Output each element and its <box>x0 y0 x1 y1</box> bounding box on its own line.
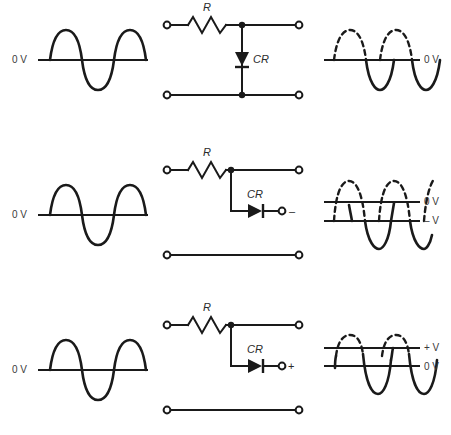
diode-label: CR <box>247 343 263 355</box>
junction-node-top <box>228 167 234 173</box>
sine-wave-second-cycle <box>114 340 146 370</box>
junction-node-bottom <box>239 92 245 98</box>
wave-rise-1 <box>335 356 336 368</box>
diode-anode-triangle <box>248 204 262 218</box>
zero-volt-label: 0 V <box>12 364 27 375</box>
clipped-positive-half-2 <box>366 30 412 60</box>
resistor-label: R <box>203 301 211 313</box>
output-terminal-top[interactable] <box>296 322 303 329</box>
junction-node-top <box>239 22 245 28</box>
zero-volt-label: 0 V <box>12 54 27 65</box>
zero-volt-label: 0 V <box>12 209 27 220</box>
input-waveform-panel: 0 V <box>0 145 155 290</box>
output-waveform-panel: + V 0 V <box>320 290 451 435</box>
positive-volt-label: + V <box>424 342 440 353</box>
sine-wave-second-cycle <box>114 30 146 60</box>
input-terminal-top[interactable] <box>164 22 171 29</box>
bias-terminal[interactable] <box>279 363 286 370</box>
output-terminal-top[interactable] <box>296 22 303 29</box>
negative-volt-label: – V <box>424 215 439 226</box>
conducting-negative-half-1 <box>365 221 391 249</box>
output-terminal-top[interactable] <box>296 167 303 174</box>
zero-volt-label: 0 V <box>424 196 439 207</box>
zero-volt-label: 0 V <box>424 54 439 65</box>
circuit-panel: R CR <box>155 0 320 145</box>
input-waveform-panel: 0 V <box>0 290 155 435</box>
row-diode-to-negative-bias: 0 V R <box>0 145 451 290</box>
bias-terminal[interactable] <box>279 208 286 215</box>
conducting-negative-half-1 <box>366 60 394 90</box>
wave-crossing-1 <box>391 203 394 221</box>
diode-label: CR <box>253 53 269 65</box>
bias-polarity-label: – <box>289 205 296 217</box>
input-waveform-panel: 0 V <box>0 0 155 145</box>
row-shunt-diode-to-ground: 0 V <box>0 0 451 145</box>
resistor-symbol <box>188 17 226 33</box>
row-diode-to-positive-bias: 0 V R CR <box>0 290 451 435</box>
wave-rise-2 <box>391 348 393 360</box>
resistor-label: R <box>203 146 211 158</box>
diode-label: CR <box>247 188 263 200</box>
input-terminal-bottom[interactable] <box>164 92 171 99</box>
output-terminal-bottom[interactable] <box>296 407 303 414</box>
input-terminal-bottom[interactable] <box>164 252 171 259</box>
zero-volt-label: 0 V <box>424 361 439 372</box>
clipped-positive-half-1 <box>336 335 363 356</box>
resistor-symbol <box>188 162 226 178</box>
bias-polarity-label: + <box>288 360 294 372</box>
output-terminal-bottom[interactable] <box>296 252 303 259</box>
output-terminal-bottom[interactable] <box>296 92 303 99</box>
output-waveform-panel: 0 V – V <box>320 145 451 290</box>
input-terminal-top[interactable] <box>164 167 171 174</box>
clipped-positive-half-2 <box>382 335 409 356</box>
clipped-positive-half-1 <box>334 30 366 60</box>
junction-node-top <box>228 322 234 328</box>
wave-crossing-2 <box>349 205 352 221</box>
conducting-negative-half-1 <box>363 354 391 394</box>
diode-anode-triangle <box>235 52 249 66</box>
resistor-symbol <box>188 317 226 333</box>
circuit-panel: R CR + <box>155 290 320 435</box>
output-waveform-panel: 0 V <box>320 0 451 145</box>
circuit-panel: R CR – <box>155 145 320 290</box>
diode-clipper-figure: 0 V <box>0 0 451 435</box>
input-terminal-top[interactable] <box>164 322 171 329</box>
input-terminal-bottom[interactable] <box>164 407 171 414</box>
diode-anode-triangle <box>248 359 262 373</box>
conducting-negative-half-2 <box>409 354 437 394</box>
sine-wave-second-cycle <box>114 185 146 215</box>
resistor-label: R <box>203 1 211 13</box>
